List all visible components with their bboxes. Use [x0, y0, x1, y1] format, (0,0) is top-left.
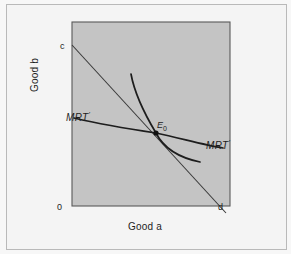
- diagram-canvas: [0, 0, 291, 254]
- mrt-left-label: MRT': [66, 111, 90, 123]
- mrt-right-label: MRT': [206, 139, 230, 151]
- plot-area-background: [72, 22, 230, 206]
- y-axis-label: Good b: [30, 58, 40, 92]
- mrt-left-label-prime: ': [88, 111, 90, 118]
- x-intercept-label-d: d: [218, 203, 223, 212]
- mrt-right-label-prime: ': [228, 139, 230, 146]
- origin-label: 0: [57, 203, 62, 212]
- mrt-left-label-text: MRT: [66, 112, 88, 123]
- equilibrium-label-subscript: 0: [163, 125, 167, 132]
- equilibrium-label: E0: [157, 121, 167, 132]
- figure-page: Good b Good a 0 c d E0 MRT' MRT': [0, 0, 291, 254]
- y-intercept-label-c: c: [60, 42, 65, 51]
- mrt-right-label-text: MRT: [206, 140, 228, 151]
- x-axis-label: Good a: [128, 222, 162, 232]
